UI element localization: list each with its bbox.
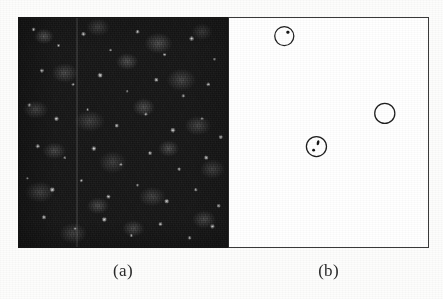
panel-a-speckle-image [18,17,228,248]
circle-marker-top-left-marker[interactable] [275,27,294,46]
panel-b-annotation-panel [228,17,429,248]
figure-root: (a) (b) [0,0,443,299]
figure-captions-row: (a) (b) [18,258,429,288]
speckle-vignette [19,18,227,247]
annotation-layer [275,27,395,157]
circle-outline-icon [306,137,326,157]
circle-marker-right-marker[interactable] [375,103,395,123]
detected-point-mark-2 [312,149,315,152]
circle-outline-icon [375,103,395,123]
figure-panels-row [18,17,429,248]
caption-panel-a: (a) [18,258,228,288]
annotation-canvas [229,18,428,247]
caption-panel-b: (b) [228,258,429,288]
circle-marker-center-marker[interactable] [306,137,326,157]
circle-outline-icon [275,27,294,46]
